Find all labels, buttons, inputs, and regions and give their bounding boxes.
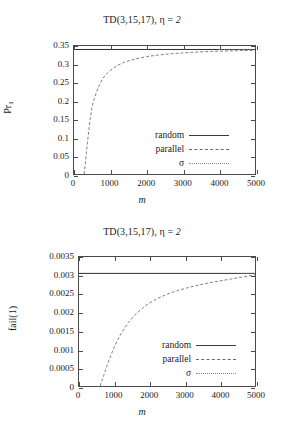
y-axis-tick-mark (251, 102, 255, 103)
x-axis-tick-label: 1000 (101, 178, 119, 188)
y-axis-tick-label: 0.0015 (49, 326, 74, 336)
x-axis-tick-mark (221, 257, 222, 261)
legend-item: σ (155, 156, 229, 170)
y-axis-tick-mark (74, 102, 78, 103)
legend-key-sigma (189, 160, 229, 167)
y-axis-tick-mark (251, 351, 255, 352)
legend-key-parallel (196, 356, 236, 363)
x-axis-tick-label: 1000 (105, 390, 123, 400)
x-axis-tick-mark (184, 170, 185, 174)
y-axis-tick-mark (79, 332, 83, 333)
y-axis-tick-mark (251, 46, 255, 47)
y-axis-tick-mark (251, 369, 255, 370)
x-axis-tick-label: 3000 (174, 178, 192, 188)
x-axis-tick-label: 0 (76, 390, 81, 400)
y-axis-tick-mark (79, 276, 83, 277)
y-axis-tick-mark (74, 176, 78, 177)
chart-figure-prl: TD(3,15,17), η = 2 Pr1 00.050.10.150.20.… (0, 0, 284, 211)
legend-label-parallel: parallel (156, 144, 184, 154)
y-axis-tick-mark (251, 65, 255, 66)
chart-title-eta-value: 2 (176, 14, 181, 25)
x-axis-tick-mark (111, 170, 112, 174)
x-axis-tick-mark (220, 46, 221, 50)
x-axis-tick-mark (220, 170, 221, 174)
x-axis-tick-mark (257, 257, 258, 261)
y-axis-tick-label: 0.002 (54, 307, 74, 317)
legend-item: random (162, 338, 236, 352)
y-axis-tick-label: 0.25 (53, 77, 69, 87)
x-axis-tick-label: 2000 (137, 178, 155, 188)
y-axis-tick-mark (79, 294, 83, 295)
y-axis-tick-label: 0.2 (58, 96, 69, 106)
y-axis-tick-mark (251, 388, 255, 389)
y-axis-tick-mark (74, 65, 78, 66)
y-axis-tick-mark (251, 120, 255, 121)
y-axis-tick-mark (251, 176, 255, 177)
y-axis-tick-mark (251, 276, 255, 277)
x-axis-tick-mark (184, 46, 185, 50)
x-axis-tick-label: 0 (71, 178, 76, 188)
chart-title-eta-value: 2 (176, 226, 181, 237)
y-axis-tick-mark (79, 388, 83, 389)
chart-title-prefix: TD(3,15,17), η = (103, 14, 176, 25)
legend-label-sigma: σ (186, 368, 191, 378)
x-axis-tick-mark (257, 382, 258, 386)
y-axis-tick-mark (251, 313, 255, 314)
y-axis-tick-mark (251, 294, 255, 295)
y-axis-tick-mark (251, 332, 255, 333)
y-axis-tick-label: 0 (65, 170, 70, 180)
y-axis-tick-label: 0.0005 (49, 363, 74, 373)
y-axis-tick-mark (79, 369, 83, 370)
x-axis-tick-mark (221, 382, 222, 386)
x-axis-tick-label: 5000 (247, 390, 265, 400)
y-axis-tick-mark (74, 157, 78, 158)
x-axis-tick-mark (147, 170, 148, 174)
y-axis-label: Pr1 (2, 88, 13, 128)
y-axis-tick-label: 0.35 (53, 40, 69, 50)
y-axis-label: fail(1) (7, 299, 18, 339)
x-axis-tick-mark (74, 46, 75, 50)
y-axis-label-text: Pr (2, 105, 13, 114)
y-axis-tick-labels: 00.00050.0010.00150.0020.00250.0030.0035 (18, 212, 74, 423)
y-axis-tick-label: 0.1 (58, 133, 69, 143)
y-axis-label-subscript: 1 (7, 101, 15, 105)
y-axis-tick-mark (79, 351, 83, 352)
y-axis-tick-label: 0.0035 (49, 251, 74, 261)
y-axis-tick-label: 0 (70, 382, 75, 392)
x-axis-tick-mark (115, 257, 116, 261)
y-axis-tick-label: 0.15 (53, 114, 69, 124)
y-axis-tick-label: 0.3 (58, 59, 69, 69)
x-axis-tick-mark (147, 46, 148, 50)
legend-label-random: random (155, 130, 184, 140)
x-axis-tick-mark (79, 257, 80, 261)
legend-label-sigma: σ (179, 158, 184, 168)
x-axis-tick-mark (115, 382, 116, 386)
legend-key-parallel (189, 146, 229, 153)
legend-key-random (196, 342, 236, 349)
chart-title-prefix: TD(3,15,17), η = (103, 226, 176, 237)
y-axis-tick-mark (251, 139, 255, 140)
y-axis-tick-label: 0.001 (54, 345, 74, 355)
x-axis-tick-mark (150, 257, 151, 261)
y-axis-tick-mark (74, 83, 78, 84)
legend-key-sigma (196, 370, 236, 377)
x-axis-tick-mark (186, 257, 187, 261)
y-axis-tick-mark (251, 83, 255, 84)
x-axis-tick-label: 5000 (247, 178, 265, 188)
y-axis-tick-label: 0.0025 (49, 288, 74, 298)
legend-item: σ (162, 366, 236, 380)
y-axis-tick-mark (74, 120, 78, 121)
legend-key-random (189, 132, 229, 139)
x-axis-tick-mark (257, 46, 258, 50)
x-axis-label: m (0, 194, 284, 205)
y-axis-tick-label: 0.05 (53, 151, 69, 161)
x-axis-label: m (0, 406, 284, 417)
legend-label-random: random (162, 340, 191, 350)
x-axis-tick-label: 3000 (176, 390, 194, 400)
x-axis-tick-label: 4000 (210, 178, 228, 188)
legend: random parallel σ (155, 128, 229, 170)
x-axis-tick-label: 2000 (140, 390, 158, 400)
y-axis-tick-mark (79, 313, 83, 314)
y-axis-tick-mark (251, 257, 255, 258)
x-axis-tick-mark (74, 170, 75, 174)
